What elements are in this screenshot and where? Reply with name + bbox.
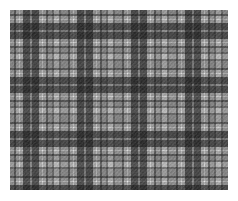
plaid-swatch-frame: Grayscale Plaid Tartan Fabric Swatch — [0, 0, 238, 201]
plaid-pattern-canvas — [10, 10, 228, 190]
